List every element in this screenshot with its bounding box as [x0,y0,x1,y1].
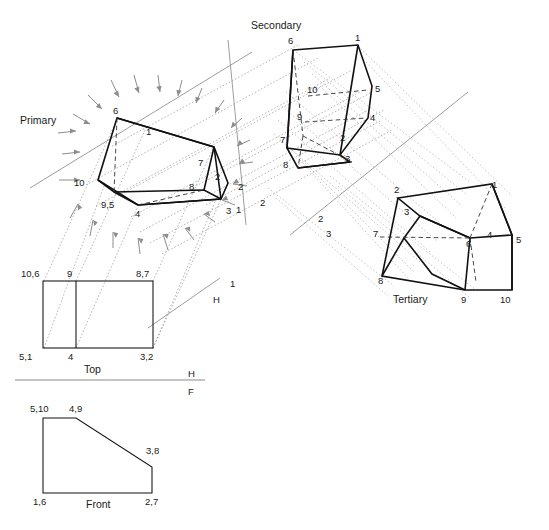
front-vertex-3-8: 3,8 [146,445,159,456]
top-vertex-5-1: 5,1 [19,351,32,362]
secondary-object [287,45,372,168]
fold-label-f-main: F [188,386,194,397]
secondary-vertex-8: 8 [283,159,288,170]
tertiary-title: Tertiary [393,293,428,305]
front-vertex-1-6: 1,6 [33,496,46,507]
top-vertex-10-6: 10,6 [21,268,40,279]
top-view-labels: Top 10,6 9 8,7 5,1 4 3,2 [19,268,153,375]
primary-vertex-9-5: 9,5 [101,199,114,210]
fold-label-h-main: H [188,368,195,379]
aux-label-1-left: 1 [236,204,241,215]
front-view-labels: Front 5,10 4,9 3,8 1,6 2,7 [30,403,159,510]
tertiary-vertex-3: 3 [404,206,409,217]
auxiliary-axis-lines [30,40,468,328]
top-vertex-3-2: 3,2 [140,351,153,362]
secondary-vertex-2: 2 [340,132,345,143]
fold-line-labels: 1 H H F 1 2 2 2 3 [188,171,331,397]
front-view-title: Front [86,498,111,510]
primary-vertex-2: 2 [238,181,243,192]
top-view-object [43,281,153,348]
primary-title: Primary [20,114,57,126]
primary-vertex-8: 8 [189,181,194,192]
secondary-vertex-7: 7 [280,134,285,145]
sight-direction-arrows [58,75,253,254]
primary-vertex-10: 10 [74,177,85,188]
aux-label-2-left: 2 [260,197,265,208]
projection-lines-secondary-to-tertiary [274,46,512,278]
secondary-vertex-9: 9 [297,111,302,122]
tertiary-vertex-2: 2 [394,184,399,195]
front-view-object [43,418,152,493]
fold-label-h-top: H [213,294,220,305]
secondary-vertex-4: 4 [370,112,375,123]
top-view-title: Top [84,363,101,375]
projection-lines-top-to-primary [44,117,228,348]
aux-label-3-right: 3 [326,228,331,239]
technical-drawing-canvas: Primary 6 1 7 8 2 3 4 9,5 10 Secondary 6… [0,0,549,530]
fold-label-1-top: 1 [230,278,235,289]
secondary-vertex-1: 1 [355,32,360,43]
tertiary-vertex-7: 7 [373,228,378,239]
top-vertex-4: 4 [68,351,73,362]
tertiary-vertex-10: 10 [500,294,511,305]
primary-vertex-4: 4 [135,208,140,219]
tertiary-vertex-1: 1 [492,179,497,190]
front-vertex-2-7: 2,7 [145,496,158,507]
aux-label-2-mid: 2 [215,171,220,182]
secondary-vertex-10: 10 [307,84,318,95]
primary-vertex-3: 3 [226,205,231,216]
front-vertex-5-10: 5,10 [30,403,49,414]
tertiary-vertex-8: 8 [378,275,383,286]
primary-vertex-6: 6 [113,105,118,116]
top-vertex-9: 9 [67,268,72,279]
primary-object [98,118,228,205]
tertiary-vertex-9: 9 [461,294,466,305]
secondary-vertex-3: 3 [345,153,350,164]
tertiary-vertex-6: 6 [466,238,471,249]
secondary-view-labels: Secondary 6 1 10 5 9 4 7 2 8 3 [251,19,380,170]
front-vertex-4-9: 4,9 [69,403,82,414]
tertiary-view-labels: Tertiary 2 1 3 7 4 5 6 8 9 10 [373,179,521,305]
drawing-svg: Primary 6 1 7 8 2 3 4 9,5 10 Secondary 6… [0,0,549,530]
aux-label-2-right: 2 [318,213,323,224]
secondary-title: Secondary [251,19,302,31]
secondary-vertex-5: 5 [375,83,380,94]
primary-vertex-7: 7 [198,157,203,168]
tertiary-vertex-5: 5 [516,234,521,245]
top-vertex-8-7: 8,7 [136,268,149,279]
secondary-vertex-6: 6 [288,35,293,46]
primary-vertex-1: 1 [146,126,151,137]
tertiary-vertex-4: 4 [487,229,492,240]
